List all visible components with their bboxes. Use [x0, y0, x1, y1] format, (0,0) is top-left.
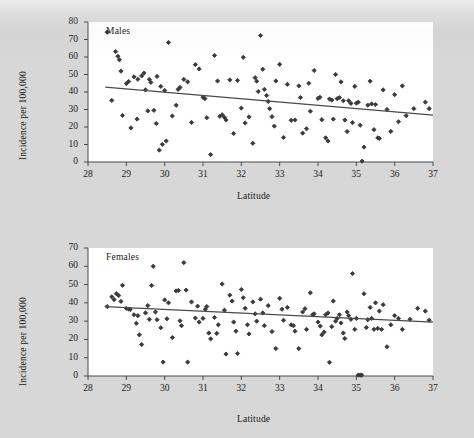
- data-point: [189, 300, 193, 304]
- data-point: [197, 320, 201, 324]
- data-point: [159, 326, 163, 330]
- data-point: [270, 115, 274, 119]
- data-point: [358, 123, 362, 127]
- data-point: [161, 360, 165, 364]
- data-point: [234, 329, 238, 333]
- data-point: [230, 299, 234, 303]
- scatter-overlay-males: [0, 0, 474, 215]
- data-point: [404, 114, 408, 118]
- data-point: [339, 80, 343, 84]
- data-point: [308, 291, 312, 295]
- data-point: [209, 153, 213, 157]
- data-point: [308, 109, 312, 113]
- data-point: [152, 108, 156, 112]
- data-point: [150, 283, 154, 287]
- data-point: [209, 337, 213, 341]
- data-point: [280, 307, 284, 311]
- data-point: [281, 318, 285, 322]
- data-point: [304, 327, 308, 331]
- data-point: [297, 84, 301, 88]
- data-point: [247, 332, 251, 336]
- data-point: [154, 121, 158, 125]
- data-point: [274, 346, 278, 350]
- data-point: [427, 107, 431, 111]
- data-point: [174, 103, 178, 107]
- data-points: [105, 261, 431, 378]
- data-point: [341, 99, 345, 103]
- data-point: [278, 62, 282, 66]
- data-point: [201, 316, 205, 320]
- data-point: [189, 120, 193, 124]
- data-point: [228, 78, 232, 82]
- data-point: [372, 327, 376, 331]
- data-point: [274, 79, 278, 83]
- data-point: [320, 118, 324, 122]
- data-point: [362, 145, 366, 149]
- data-point: [423, 100, 427, 104]
- data-point: [373, 103, 377, 107]
- data-point: [412, 107, 416, 111]
- data-point: [215, 331, 219, 335]
- data-point: [281, 135, 285, 139]
- data-point: [170, 114, 174, 118]
- series-label-males: Males: [106, 26, 130, 36]
- data-point: [159, 84, 163, 88]
- data-point: [216, 323, 220, 327]
- data-point: [224, 352, 228, 356]
- data-point: [330, 325, 334, 329]
- data-point: [132, 313, 136, 317]
- data-point: [228, 293, 232, 297]
- data-point: [255, 319, 259, 323]
- data-point: [146, 304, 150, 308]
- data-point: [166, 301, 170, 305]
- data-point: [119, 69, 123, 73]
- data-point: [331, 117, 335, 121]
- data-point: [155, 318, 159, 322]
- data-point: [393, 314, 397, 318]
- data-point: [293, 329, 297, 333]
- data-point: [270, 329, 274, 333]
- data-point: [377, 309, 381, 313]
- data-point: [239, 106, 243, 110]
- data-point: [164, 139, 168, 143]
- data-point: [345, 129, 349, 133]
- data-point: [343, 118, 347, 122]
- data-point: [393, 93, 397, 97]
- data-point: [261, 67, 265, 71]
- data-point: [163, 298, 167, 302]
- data-point: [343, 336, 347, 340]
- data-point: [132, 75, 136, 79]
- data-point: [376, 326, 380, 330]
- data-point: [423, 309, 427, 313]
- data-point: [293, 118, 297, 122]
- data-point: [243, 306, 247, 310]
- data-point: [298, 96, 302, 100]
- data-point: [285, 305, 289, 309]
- data-point: [262, 324, 266, 328]
- data-point: [368, 305, 372, 309]
- data-point: [272, 124, 276, 128]
- data-point: [165, 317, 169, 321]
- data-point: [178, 319, 182, 323]
- data-point: [416, 306, 420, 310]
- data-point: [278, 296, 282, 300]
- data-point: [258, 297, 262, 301]
- data-point: [166, 40, 170, 44]
- data-point: [243, 121, 247, 125]
- data-point: [114, 49, 118, 53]
- data-point: [251, 141, 255, 145]
- data-point: [381, 88, 385, 92]
- data-point: [251, 300, 255, 304]
- data-point: [389, 129, 393, 133]
- data-point: [400, 84, 404, 88]
- data-point: [193, 316, 197, 320]
- data-point: [235, 78, 239, 82]
- data-point: [134, 321, 138, 325]
- data-point: [184, 288, 188, 292]
- data-point: [304, 127, 308, 131]
- data-point: [380, 327, 384, 331]
- data-point: [297, 346, 301, 350]
- data-point: [179, 324, 183, 328]
- data-point: [137, 333, 141, 337]
- data-point: [212, 53, 216, 57]
